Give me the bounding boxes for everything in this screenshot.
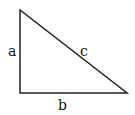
right-triangle-diagram: a c b: [0, 0, 135, 115]
side-label-b: b: [58, 97, 67, 113]
triangle-shape: [20, 10, 127, 93]
side-label-a: a: [8, 43, 16, 59]
side-label-c: c: [80, 43, 88, 59]
